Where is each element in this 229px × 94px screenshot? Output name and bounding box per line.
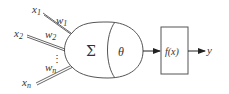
neuron-body bbox=[65, 22, 144, 78]
activation-label: f(x) bbox=[165, 46, 180, 58]
ellipsis: ⋮ bbox=[52, 53, 62, 64]
threshold-symbol: θ bbox=[118, 45, 124, 59]
diagram-canvas: x1 w1 x2 w2 ⋮ wn xn Σ θ f(x) y bbox=[0, 0, 229, 94]
neuron-diagram: x1 w1 x2 w2 ⋮ wn xn Σ θ f(x) y bbox=[0, 0, 229, 94]
weight-label-1: w1 bbox=[56, 14, 67, 28]
input-label-2: x2 bbox=[13, 27, 23, 41]
input-label-1: x1 bbox=[31, 3, 41, 17]
weight-label-2: w2 bbox=[45, 28, 56, 42]
output-label: y bbox=[206, 44, 212, 56]
summation-symbol: Σ bbox=[86, 43, 96, 59]
input-label-n: xn bbox=[21, 76, 31, 90]
